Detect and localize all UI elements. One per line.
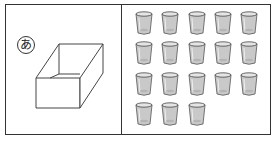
cup-icon bbox=[134, 40, 154, 66]
cup-icon bbox=[187, 71, 207, 97]
cup-icon bbox=[239, 10, 259, 36]
cup-icon bbox=[187, 40, 207, 66]
cup-icon bbox=[213, 40, 233, 66]
cup-icon bbox=[134, 101, 154, 127]
cup-icon bbox=[239, 40, 259, 66]
panel-divider bbox=[121, 4, 122, 135]
open-box-icon bbox=[30, 38, 110, 118]
cup-icon bbox=[187, 10, 207, 36]
cup-icon bbox=[187, 101, 207, 127]
cup-icon bbox=[160, 40, 180, 66]
cup-icon bbox=[213, 71, 233, 97]
cup-icon bbox=[239, 71, 259, 97]
cup-icon bbox=[160, 101, 180, 127]
cup-icon bbox=[160, 71, 180, 97]
cup-icon bbox=[213, 10, 233, 36]
cup-icon bbox=[134, 71, 154, 97]
cup-icon bbox=[160, 10, 180, 36]
cup-icon bbox=[134, 10, 154, 36]
